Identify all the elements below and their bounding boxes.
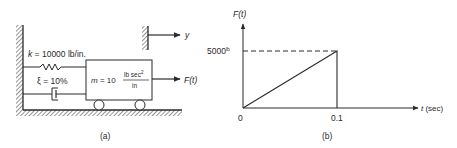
peak-value-label: 5000lb: [207, 46, 230, 56]
mass-label: m = 10: [91, 76, 116, 85]
diagram-canvas: k = 10000 lb/in. ξ = 10% m = 10 lb sec2 …: [0, 0, 457, 148]
fixed-wall-left: [16, 25, 23, 110]
x-tick-label: 0.1: [331, 113, 343, 123]
figure-b-load-plot: F(t) t (sec) 5000lb 0 0.1 (b): [207, 9, 444, 141]
figure-b-caption: (b): [322, 131, 333, 141]
load-curve: [243, 51, 337, 108]
displacement-reference-wall: [142, 26, 148, 50]
x-axis-label: t (sec): [421, 104, 444, 113]
figure-a-caption: (a): [100, 131, 111, 141]
damper: [23, 88, 86, 100]
origin-label: 0: [238, 113, 243, 123]
wheel-left: [94, 100, 104, 110]
figure-a-mechanical-system: k = 10000 lb/in. ξ = 10% m = 10 lb sec2 …: [16, 25, 197, 141]
displacement-label: y: [184, 30, 190, 40]
wheel-right: [135, 100, 145, 110]
force-label: F(t): [184, 75, 197, 85]
spring-constant-label: k = 10000 lb/in.: [28, 49, 86, 59]
ground: [16, 110, 182, 116]
mass-unit-denominator: in: [132, 82, 137, 89]
spring: [23, 64, 86, 70]
damping-ratio-label: ξ = 10%: [37, 76, 68, 86]
y-axis-label: F(t): [233, 9, 246, 19]
